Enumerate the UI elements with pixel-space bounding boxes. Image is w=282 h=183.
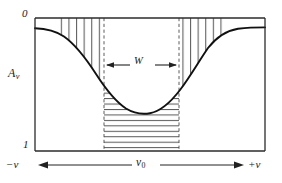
- x-axis-negative-symbol: ν: [13, 158, 18, 170]
- x-axis-label-positive: +ν: [248, 159, 260, 170]
- x-axis-center-label: ν0: [136, 157, 146, 170]
- x-axis-center-subscript: 0: [141, 161, 145, 170]
- y-axis-label-subscript: ν: [15, 72, 19, 81]
- x-axis-label-negative: −ν: [6, 159, 18, 170]
- y-axis-label: Aν: [8, 67, 19, 81]
- y-axis-bottom-tick-label: 1: [23, 139, 29, 150]
- x-axis-positive-symbol: ν: [255, 158, 260, 170]
- y-axis-top-tick-label: 0: [22, 8, 28, 19]
- absorption-line-profile-figure: 0 1 Aν −ν +ν ν0 W: [0, 0, 282, 183]
- arrowhead-minus-nu: [38, 161, 48, 168]
- equivalent-width-label: W: [134, 56, 143, 67]
- arrowhead-plus-nu: [234, 161, 244, 168]
